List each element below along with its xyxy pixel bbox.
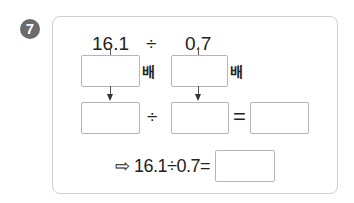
division-sign-top: ÷ [146, 34, 156, 54]
multiplier-box-divisor[interactable] [171, 55, 228, 87]
times-label: 배 [142, 64, 155, 80]
new-dividend-box[interactable] [81, 102, 140, 134]
new-divisor-box[interactable] [171, 102, 229, 134]
quotient-box[interactable] [250, 102, 309, 134]
multiplier-box-dividend[interactable] [81, 55, 140, 87]
division-sign: ÷ [147, 107, 157, 127]
final-expression: ⇨ 16.1÷0.7= [115, 156, 210, 176]
connector-line [198, 47, 199, 55]
times-label: 배 [230, 64, 243, 80]
arrow-down-icon [195, 94, 201, 101]
problem-number-badge: 7 [20, 19, 40, 39]
final-answer-box[interactable] [215, 150, 275, 182]
arrow-down-icon [107, 94, 113, 101]
equals-sign: = [233, 107, 246, 127]
connector-line [110, 47, 111, 55]
